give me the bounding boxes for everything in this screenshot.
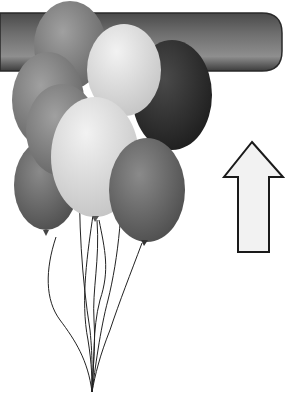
- balloon-right-low: [109, 138, 185, 246]
- up-arrow-icon: [224, 142, 283, 252]
- balloons-illustration: [0, 0, 293, 396]
